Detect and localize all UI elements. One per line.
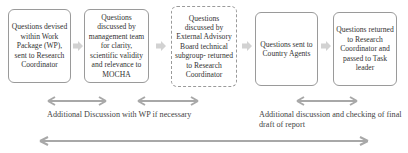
step-3-text: Questions discussed by External Advisory…: [174, 14, 234, 80]
step-2-text: Questions discussed by management team f…: [87, 13, 146, 79]
step-1-box: Questions devised within Work Package (W…: [8, 9, 71, 83]
arrow-right-icon: [72, 40, 84, 52]
arrow-right-icon: [241, 40, 253, 52]
step-5-box: Questions returned to Research Coordinat…: [333, 12, 397, 86]
annotation-right: Additional discussion and checking of fi…: [259, 110, 407, 130]
long-double-arrow-icon: [38, 136, 370, 146]
step-4-text: Questions sent to Country Agents: [258, 40, 315, 59]
step-3-box: Questions discussed by External Advisory…: [171, 6, 237, 87]
double-arrow-icon: [295, 96, 359, 106]
annotation-left: Additional Discussion with WP if necessa…: [47, 110, 191, 120]
arrow-right-icon: [155, 40, 167, 52]
step-4-box: Questions sent to Country Agents: [255, 12, 318, 86]
step-1-text: Questions devised within Work Package (W…: [11, 22, 68, 69]
arrow-right-icon: [320, 40, 332, 52]
double-arrow-icon: [136, 96, 200, 106]
step-5-text: Questions returned to Research Coordinat…: [336, 25, 394, 72]
double-arrow-icon: [46, 96, 108, 106]
step-2-box: Questions discussed by management team f…: [84, 9, 149, 83]
